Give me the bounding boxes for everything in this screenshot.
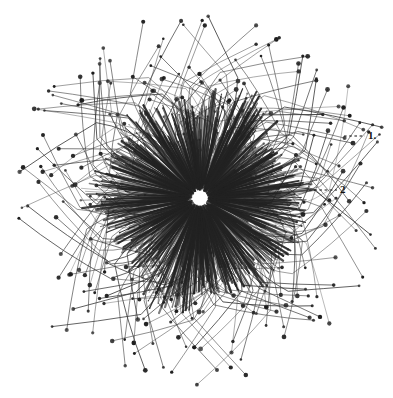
figure-plate: 1. 2	[0, 0, 393, 398]
figure-background	[0, 0, 393, 398]
organism-illustration	[0, 0, 393, 398]
figure-label-1: 1.	[368, 130, 376, 141]
figure-label-2: 2	[340, 184, 346, 195]
